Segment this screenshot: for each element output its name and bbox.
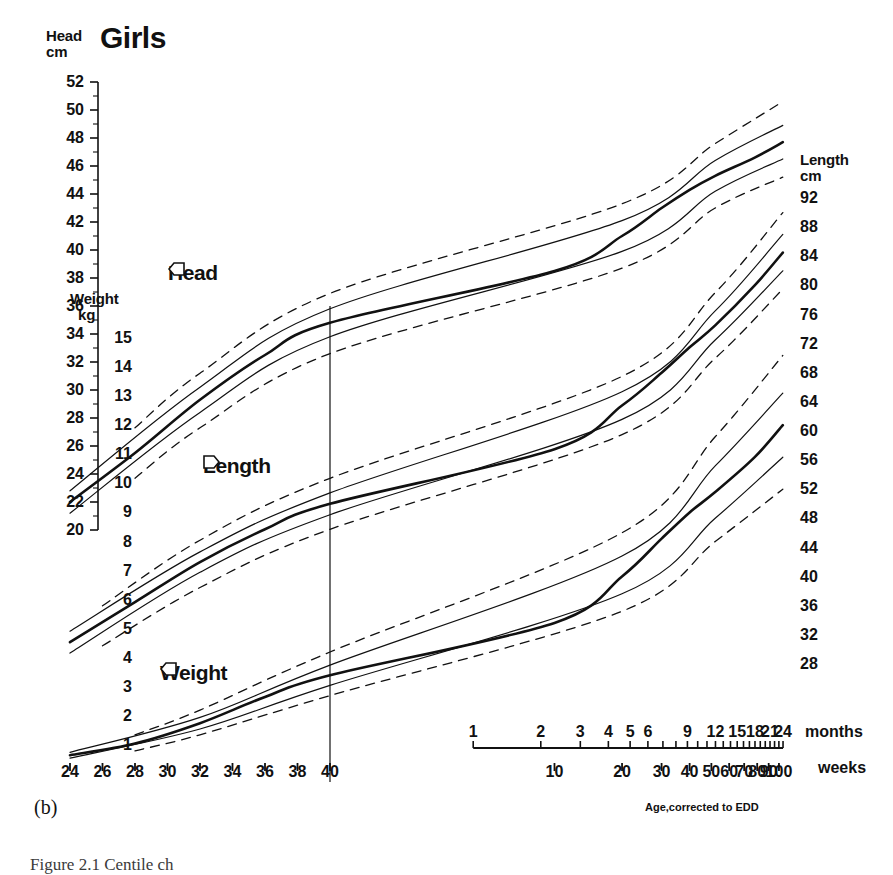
months-tick-label: 5 bbox=[626, 723, 635, 740]
head-tick-label: 26 bbox=[66, 437, 84, 454]
head-tick-label: 34 bbox=[66, 325, 84, 342]
length-tick-label: 48 bbox=[800, 509, 818, 526]
head-tick-label: 44 bbox=[66, 185, 84, 202]
head-tick-label: 48 bbox=[66, 129, 84, 146]
months-tick-label: 1 bbox=[469, 723, 478, 740]
length-tick-label: 72 bbox=[800, 335, 818, 352]
centile-curve-head-75 bbox=[70, 125, 783, 490]
figure-caption: Figure 2.1 Centile ch bbox=[30, 856, 330, 875]
gestation-tick-label: 32 bbox=[191, 763, 209, 780]
weight-tick-label: 14 bbox=[114, 358, 132, 375]
centile-curve-length-25 bbox=[70, 271, 783, 653]
weight-tick-label: 2 bbox=[123, 707, 132, 724]
weight-tick-label: 3 bbox=[123, 678, 132, 695]
gestation-tick-label: 26 bbox=[94, 763, 112, 780]
head-tick-label: 30 bbox=[66, 381, 84, 398]
gestation-tick-label: 34 bbox=[224, 763, 242, 780]
axis-footnote: Age,corrected to EDD bbox=[645, 802, 759, 814]
length-tick-label: 64 bbox=[800, 393, 818, 410]
length-tick-label: 88 bbox=[800, 218, 818, 235]
months-unit-label: months bbox=[805, 724, 863, 741]
postnatal-week-tick-label: 20 bbox=[613, 763, 631, 780]
gestation-tick-label: 36 bbox=[256, 763, 274, 780]
postnatal-week-tick-label: 100 bbox=[766, 763, 793, 780]
months-tick-label: 12 bbox=[707, 723, 725, 740]
head-tick-label: 32 bbox=[66, 353, 84, 370]
weight-tick-label: 8 bbox=[123, 533, 132, 550]
months-tick-label: 2 bbox=[536, 723, 545, 740]
length-tick-label: 28 bbox=[800, 655, 818, 672]
head-tick-label: 38 bbox=[66, 269, 84, 286]
postnatal-week-tick-label: 30 bbox=[653, 763, 671, 780]
weight-tick-label: 4 bbox=[123, 649, 132, 666]
postnatal-week-tick-label: 10 bbox=[546, 763, 564, 780]
months-tick-label: 9 bbox=[683, 723, 692, 740]
weight-tick-label: 13 bbox=[114, 387, 132, 404]
length-tick-label: 68 bbox=[800, 364, 818, 381]
length-tick-label: 36 bbox=[800, 597, 818, 614]
length-tick-label: 52 bbox=[800, 480, 818, 497]
head-tick-label: 42 bbox=[66, 213, 84, 230]
centile-curve-weight-50 bbox=[70, 425, 783, 755]
growth-chart-figure: 5250484644424038363432302826242220151413… bbox=[0, 0, 893, 875]
gestation-tick-label: 28 bbox=[126, 763, 144, 780]
head-tick-label: 28 bbox=[66, 409, 84, 426]
head-tick-label: 52 bbox=[66, 73, 84, 90]
head-tick-label: 20 bbox=[66, 521, 84, 538]
weight-tick-label: 7 bbox=[123, 562, 132, 579]
head-tick-label: 24 bbox=[66, 465, 84, 482]
length-band-label: Length bbox=[203, 455, 271, 477]
centile-curve-length-75 bbox=[70, 234, 783, 631]
length-tick-label: 92 bbox=[800, 189, 818, 206]
weight-tick-label: 9 bbox=[123, 503, 132, 520]
postnatal-week-tick-label: 50 bbox=[702, 763, 720, 780]
centile-curve-head-3 bbox=[135, 177, 783, 478]
length-tick-label: 32 bbox=[800, 626, 818, 643]
months-tick-label: 15 bbox=[728, 723, 746, 740]
gestation-tick-label: 30 bbox=[159, 763, 177, 780]
centile-curve-weight-75 bbox=[70, 393, 783, 752]
weight-tick-label: 15 bbox=[114, 329, 132, 346]
length-axis-title: Length cm bbox=[800, 152, 849, 184]
length-tick-label: 80 bbox=[800, 276, 818, 293]
weight-tick-label: 12 bbox=[114, 416, 132, 433]
months-tick-label: 6 bbox=[643, 723, 652, 740]
centile-curve-head-50 bbox=[70, 142, 783, 502]
centile-curve-length-50 bbox=[70, 253, 783, 643]
head-axis-title: Head cm bbox=[46, 28, 82, 60]
weight-tick-label: 11 bbox=[115, 445, 132, 462]
head-band-label: Head bbox=[168, 262, 218, 284]
gestation-tick-label: 38 bbox=[289, 763, 307, 780]
length-tick-label: 44 bbox=[800, 539, 818, 556]
gestation-tick-label: 24 bbox=[61, 763, 79, 780]
length-tick-label: 84 bbox=[800, 247, 818, 264]
panel-letter: (b) bbox=[34, 797, 57, 818]
centile-curve-weight-25 bbox=[70, 457, 783, 758]
head-tick-label: 40 bbox=[66, 241, 84, 258]
length-tick-label: 40 bbox=[800, 568, 818, 585]
chart-canvas: 5250484644424038363432302826242220151413… bbox=[0, 0, 893, 875]
weight-band-label: Weight bbox=[160, 662, 227, 684]
length-tick-label: 60 bbox=[800, 422, 818, 439]
weight-tick-label: 10 bbox=[114, 474, 132, 491]
length-tick-label: 76 bbox=[800, 306, 818, 323]
centile-curve-head-97 bbox=[135, 102, 783, 428]
postnatal-week-tick-label: 40 bbox=[681, 763, 699, 780]
head-tick-label: 46 bbox=[66, 157, 84, 174]
length-tick-label: 56 bbox=[800, 451, 818, 468]
months-tick-label: 24 bbox=[774, 723, 792, 740]
months-tick-label: 4 bbox=[604, 723, 613, 740]
weight-axis-title: Weight kg bbox=[70, 291, 119, 323]
head-tick-label: 50 bbox=[66, 101, 84, 118]
weeks-unit-label: weeks bbox=[818, 760, 866, 777]
chart-title: Girls bbox=[100, 22, 166, 54]
months-tick-label: 3 bbox=[576, 723, 585, 740]
